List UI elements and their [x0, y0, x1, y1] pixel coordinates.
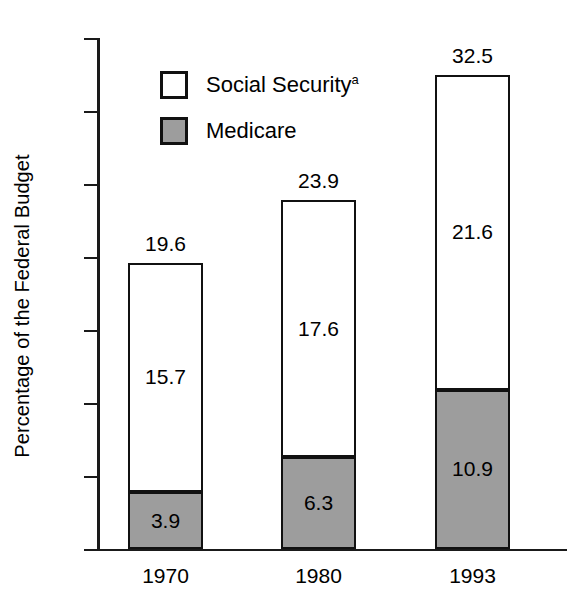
y-tick-0	[84, 549, 98, 551]
bar-segment-medicare-1970[interactable]: 3.9	[128, 492, 203, 549]
y-tick-20	[84, 257, 98, 259]
legend-item-social-security: Social Securitya	[160, 62, 359, 108]
y-tick-35	[84, 38, 98, 40]
x-axis-label-1980: 1980	[253, 565, 384, 586]
bar-group-1993[interactable]: 10.921.632.51993	[435, 75, 510, 550]
x-axis-label-1993: 1993	[407, 565, 538, 586]
legend-swatch-social-security	[160, 71, 188, 99]
y-axis-line	[97, 38, 100, 551]
legend-label-medicare: Medicare	[206, 118, 296, 144]
y-tick-30	[84, 111, 98, 113]
y-tick-5	[84, 476, 98, 478]
bar-segment-social-security-1980[interactable]: 17.6	[281, 200, 356, 457]
legend-footnote-marker: a	[352, 72, 359, 87]
legend-item-medicare: Medicare	[160, 108, 359, 154]
y-axis-title: Percentage of the Federal Budget	[0, 0, 44, 612]
bar-segment-medicare-1993[interactable]: 10.9	[435, 390, 510, 549]
legend-label-social-security-text: Social Security	[206, 72, 352, 97]
legend: Social Securitya Medicare	[160, 62, 359, 154]
bar-total-label-1970: 19.6	[108, 233, 223, 254]
y-tick-10	[84, 403, 98, 405]
stacked-bar-chart: Percentage of the Federal Budget 3530252…	[0, 0, 580, 612]
legend-label-social-security: Social Securitya	[206, 72, 359, 98]
y-tick-15	[84, 330, 98, 332]
bar-group-1980[interactable]: 6.317.623.91980	[281, 200, 356, 549]
bar-segment-social-security-1970[interactable]: 15.7	[128, 263, 203, 492]
y-tick-25	[84, 184, 98, 186]
legend-swatch-medicare	[160, 117, 188, 145]
bar-total-label-1980: 23.9	[261, 170, 376, 191]
bar-total-label-1993: 32.5	[415, 45, 530, 66]
bar-segment-medicare-1980[interactable]: 6.3	[281, 457, 356, 549]
x-axis-label-1970: 1970	[100, 565, 231, 586]
bar-group-1970[interactable]: 3.915.719.61970	[128, 263, 203, 549]
x-axis-line	[97, 549, 567, 551]
bar-segment-social-security-1993[interactable]: 21.6	[435, 75, 510, 390]
